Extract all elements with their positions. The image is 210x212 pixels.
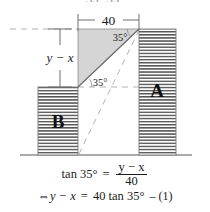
- label-angle-upper: 35°: [113, 32, 128, 43]
- eq2-lhs: y − x: [50, 189, 76, 203]
- eq2-number: – (1): [149, 189, 172, 203]
- label-angle-lower: 35°: [93, 77, 108, 88]
- label-top-dimension: 40: [102, 13, 116, 28]
- eq1-denominator: 40: [116, 174, 148, 188]
- label-column-B: B: [52, 111, 65, 132]
- label-column-A: A: [150, 80, 164, 101]
- eq2-rhs: 40 tan 35°: [93, 189, 145, 203]
- eq1-fraction: y − x40: [116, 161, 148, 188]
- equation-line-1: tan 35°=y − x40: [0, 162, 210, 189]
- eq1-numerator: y − x: [116, 161, 148, 174]
- eq2-arrow-icon: ⇔: [38, 189, 51, 203]
- eq1-relation: =: [103, 167, 110, 181]
- equation-line-2: ⇔y − x=40 tan 35°– (1): [0, 189, 210, 204]
- label-vertical-dimension: y − x: [45, 50, 74, 65]
- eq1-lhs: tan 35°: [62, 167, 98, 181]
- eq2-relation: =: [81, 189, 88, 203]
- angle-arc-lower: [90, 79, 93, 87]
